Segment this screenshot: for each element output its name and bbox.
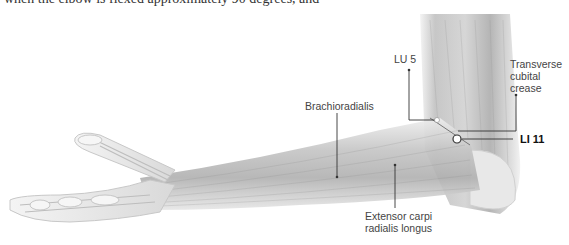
label-ecrl-line1: Extensor carpi xyxy=(365,210,432,222)
forearm-shape xyxy=(140,118,480,210)
label-lu5: LU 5 xyxy=(394,53,416,65)
label-li11: LI 11 xyxy=(520,133,544,145)
li11-point-marker xyxy=(453,135,461,143)
label-ecrl-line2: radialis longus xyxy=(365,222,432,234)
label-transverse-line1: Transverse xyxy=(510,58,562,70)
label-transverse-line2: cubital xyxy=(510,70,540,82)
lu5-point-marker xyxy=(435,118,440,123)
label-transverse-line3: crease xyxy=(510,82,542,94)
label-brachioradialis: Brachioradialis xyxy=(305,100,374,112)
forearm-illustration xyxy=(0,0,569,245)
